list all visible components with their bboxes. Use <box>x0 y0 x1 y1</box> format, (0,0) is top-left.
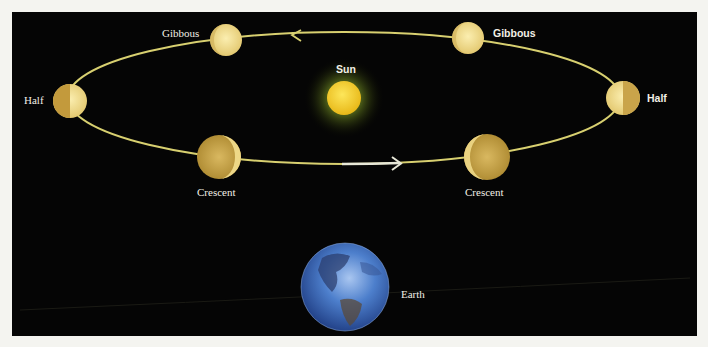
label-half-right: Half <box>647 92 667 104</box>
venus-half-right-icon <box>606 81 640 115</box>
label-crescent-right: Crescent <box>465 186 503 198</box>
diagram-frame: Gibbous Gibbous Half Half Crescent Cresc… <box>12 12 697 336</box>
label-half-left: Half <box>24 94 44 106</box>
earth-icon <box>301 243 389 331</box>
venus-gibbous-left-icon <box>210 24 242 56</box>
label-gibbous-right: Gibbous <box>493 27 536 39</box>
label-crescent-left: Crescent <box>197 186 235 198</box>
label-earth: Earth <box>401 288 425 300</box>
label-gibbous-left: Gibbous <box>162 27 199 39</box>
venus-crescent-right-icon <box>464 134 510 180</box>
venus-gibbous-right-icon <box>452 22 484 54</box>
venus-half-left-icon <box>53 84 87 118</box>
label-sun: Sun <box>336 63 356 75</box>
diagram-graphic <box>12 12 697 336</box>
orbit-arrow-icon-top <box>292 30 301 41</box>
venus-crescent-left-icon <box>197 135 241 179</box>
